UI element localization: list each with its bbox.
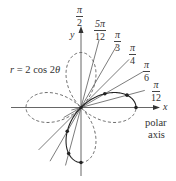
angle-label-pi-over-4: π 4 [129, 43, 136, 66]
polar-axis-label-line2: axis [148, 130, 165, 140]
polar-axis-label-line1: polar [145, 118, 167, 128]
plotted-point [79, 161, 83, 165]
angle-den: 4 [130, 55, 135, 66]
equation-label: r = 2 cos 2θ [10, 65, 60, 75]
angle-label-pi-over-2: π 2 [76, 5, 83, 28]
angle-den: 12 [95, 31, 105, 42]
plotted-point [67, 152, 71, 156]
origin-point [79, 106, 82, 109]
angle-den: 3 [115, 42, 120, 53]
plotted-point [65, 130, 69, 134]
angle-num: π [152, 80, 159, 92]
plotted-point [125, 93, 129, 97]
y-axis-label: y [70, 30, 74, 40]
angle-ray [65, 40, 99, 166]
angle-ray [50, 45, 117, 161]
angle-num: π [114, 30, 121, 42]
x-axis-arrow-icon [153, 105, 160, 110]
angle-num: 5π [94, 19, 106, 31]
x-axis-label: x [163, 102, 167, 112]
angle-label-pi-over-6: π 6 [143, 60, 150, 83]
equation-body: = 2 cos 2 [14, 64, 55, 75]
angle-num: π [143, 60, 150, 72]
angle-den: 12 [151, 92, 161, 103]
plotted-point [134, 106, 138, 110]
polar-rose-diagram [0, 0, 176, 181]
angle-num: π [76, 5, 83, 17]
plotted-point [103, 92, 107, 96]
angle-label-pi-over-3: π 3 [114, 30, 121, 53]
equation-theta: θ [55, 64, 60, 75]
angle-label-5pi-over-12: 5π 12 [94, 19, 106, 42]
angle-num: π [129, 43, 136, 55]
angle-den: 2 [77, 17, 82, 28]
angle-den: 6 [144, 72, 149, 83]
angle-label-pi-over-12: π 12 [151, 80, 161, 103]
